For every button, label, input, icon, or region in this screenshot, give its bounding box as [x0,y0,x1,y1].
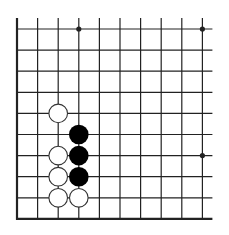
black-stone-icon [69,167,89,187]
white-stone-icon [49,146,68,165]
white-stone-icon [49,167,68,186]
star-point-icon [76,26,81,31]
star-point-icon [200,153,205,158]
star-point-icon [200,26,205,31]
white-stone-icon [49,104,68,123]
grid-lines [16,18,212,220]
go-board [0,0,229,235]
white-stone-icon [49,189,68,208]
white-stone-icon [70,189,89,208]
black-stone-icon [69,125,89,145]
black-stone-icon [69,146,89,166]
